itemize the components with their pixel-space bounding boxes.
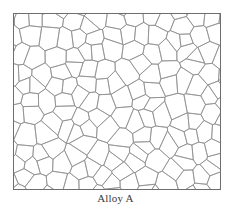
grain xyxy=(207,153,222,170)
grain xyxy=(53,106,77,121)
grain xyxy=(170,113,190,132)
grain xyxy=(21,93,39,107)
grain xyxy=(176,170,195,190)
grain xyxy=(97,116,120,143)
grain xyxy=(126,109,145,134)
grain xyxy=(107,128,133,148)
grain xyxy=(128,79,146,100)
grain xyxy=(45,47,66,68)
grain-boundaries xyxy=(13,13,221,190)
grain xyxy=(71,29,86,49)
grain xyxy=(111,85,133,108)
grain xyxy=(167,126,187,148)
grain xyxy=(62,77,78,95)
grain xyxy=(84,13,107,30)
grain xyxy=(201,85,218,105)
grain xyxy=(129,54,152,75)
grain xyxy=(87,140,109,166)
grain xyxy=(58,119,74,143)
grain xyxy=(85,157,102,177)
grain xyxy=(115,58,140,86)
grain xyxy=(57,26,74,50)
grain xyxy=(186,74,208,96)
grain xyxy=(102,173,120,189)
figure-caption: Alloy A xyxy=(0,192,231,204)
grain xyxy=(41,138,66,160)
grain xyxy=(63,173,79,190)
grain xyxy=(155,13,174,32)
grain xyxy=(25,174,47,190)
grain xyxy=(212,124,221,143)
grain xyxy=(93,165,112,185)
grain xyxy=(13,121,21,141)
grain xyxy=(95,59,115,79)
grain xyxy=(158,61,181,79)
grain xyxy=(46,171,67,190)
grain xyxy=(15,145,33,162)
grain xyxy=(193,183,211,190)
grain xyxy=(201,103,221,124)
grain xyxy=(159,131,178,159)
grain xyxy=(212,45,221,69)
grain xyxy=(39,27,60,51)
grain xyxy=(135,166,158,186)
grain xyxy=(91,44,105,62)
grain xyxy=(29,13,43,27)
grain xyxy=(133,142,155,155)
grain xyxy=(35,121,59,145)
grain xyxy=(122,40,145,60)
grain xyxy=(13,103,24,124)
grain xyxy=(80,119,97,138)
grain xyxy=(177,43,198,63)
grain xyxy=(104,151,124,171)
grain xyxy=(148,25,168,45)
grain xyxy=(112,162,134,181)
grain xyxy=(69,135,98,155)
grain xyxy=(14,169,34,187)
grain xyxy=(13,86,23,105)
grain xyxy=(134,22,149,45)
grain xyxy=(14,122,37,146)
image-frame xyxy=(14,14,221,190)
grain xyxy=(78,43,92,61)
grain xyxy=(159,38,177,61)
grain xyxy=(85,29,104,45)
grain-structure-image xyxy=(13,13,221,190)
micrograph-figure: Alloy A xyxy=(0,0,231,212)
grain xyxy=(15,77,30,94)
grain xyxy=(42,13,63,28)
grain xyxy=(180,59,206,75)
grain xyxy=(88,108,110,128)
grain xyxy=(165,93,188,120)
grain xyxy=(180,34,194,47)
grain xyxy=(30,75,46,94)
grain xyxy=(19,26,41,47)
grain xyxy=(133,127,152,143)
grain xyxy=(64,143,87,166)
grain xyxy=(124,153,145,173)
grain xyxy=(23,106,44,125)
grain xyxy=(160,75,178,97)
grain xyxy=(187,13,205,27)
grain xyxy=(193,164,210,184)
grain xyxy=(103,26,123,44)
grain xyxy=(155,171,178,190)
grain xyxy=(53,150,73,173)
grain xyxy=(65,62,83,78)
grain xyxy=(153,101,172,127)
grain xyxy=(13,155,25,174)
grain xyxy=(145,149,170,173)
grain xyxy=(162,158,184,181)
grain xyxy=(139,64,161,83)
grain xyxy=(121,25,136,46)
grain xyxy=(208,81,221,99)
